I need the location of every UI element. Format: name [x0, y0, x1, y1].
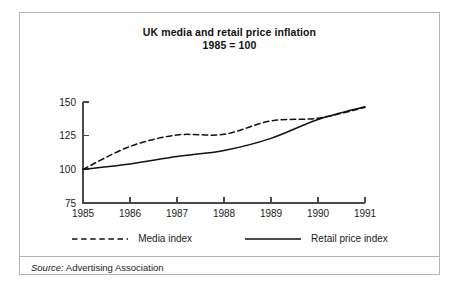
series-line-retail-price-index — [83, 107, 365, 170]
source-value: Advertising Association — [64, 262, 164, 273]
x-tick-label-1991: 1991 — [354, 208, 377, 219]
x-tick-label-1989: 1989 — [260, 208, 283, 219]
y-tick-label-125: 125 — [59, 130, 76, 141]
source-label: Source: — [31, 262, 64, 273]
y-tick-label-75: 75 — [65, 198, 77, 209]
x-tick-label-1985: 1985 — [72, 208, 95, 219]
legend-swatch-solid-icon — [244, 234, 302, 244]
legend-label-media-index: Media index — [138, 233, 192, 244]
legend-item-retail-price-index: Retail price index — [244, 233, 388, 244]
legend-item-media-index: Media index — [71, 233, 192, 244]
chart-title: UK media and retail price inflation 1985… — [20, 26, 439, 53]
x-axis-tick-labels: 1985198619871988198919901991 — [72, 208, 377, 219]
chart-title-line-1: UK media and retail price inflation — [20, 26, 439, 39]
source-divider — [20, 256, 439, 257]
x-tick-label-1987: 1987 — [166, 208, 189, 219]
y-axis-ticks — [83, 102, 89, 169]
legend-label-retail-price-index: Retail price index — [311, 233, 388, 244]
chart-title-line-2: 1985 = 100 — [20, 39, 439, 52]
source-note: Source: Advertising Association — [31, 262, 164, 273]
x-tick-label-1986: 1986 — [119, 208, 142, 219]
y-tick-label-100: 100 — [59, 164, 76, 175]
y-tick-label-150: 150 — [59, 97, 76, 108]
figure-frame: UK media and retail price inflation 1985… — [19, 12, 440, 275]
series-line-media-index — [83, 107, 365, 169]
chart-legend: Media index Retail price index — [20, 233, 439, 244]
line-chart-plot: 75100125150 1985198619871988198919901991 — [20, 65, 441, 230]
x-tick-label-1990: 1990 — [307, 208, 330, 219]
x-axis-ticks — [130, 197, 365, 203]
x-tick-label-1988: 1988 — [213, 208, 236, 219]
y-axis-tick-labels: 75100125150 — [59, 97, 76, 209]
legend-swatch-dashed-icon — [71, 234, 129, 244]
